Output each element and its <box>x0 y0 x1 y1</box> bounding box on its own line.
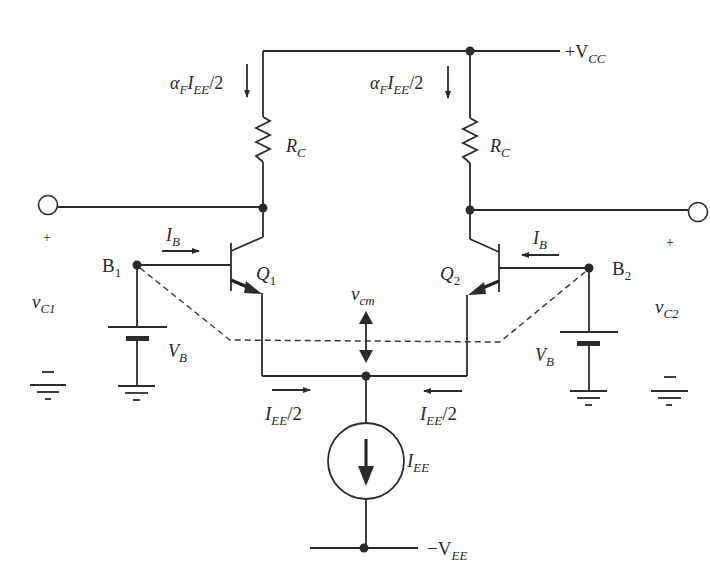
output-terminal-left[interactable] <box>39 196 58 215</box>
vee-rail: −VEE <box>310 538 467 563</box>
vcc-label: +VCC <box>565 42 606 66</box>
q1-label: Q1 <box>256 263 276 288</box>
vee-node <box>360 544 369 553</box>
battery-left-plate-short <box>126 336 149 341</box>
vcm-arrow-up <box>359 311 373 324</box>
rc-right-label: RC <box>489 136 510 160</box>
transistor-q2: Q2 <box>440 239 499 376</box>
resistor-rc-left <box>256 117 270 162</box>
iee-label: IEE <box>406 450 429 475</box>
current-source-arrow-icon <box>358 466 374 486</box>
vcm-arrow-down <box>359 350 373 363</box>
plus-right: + <box>666 235 674 250</box>
iee-half-right-label: IEE/2 <box>419 403 457 428</box>
plus-left: + <box>43 230 51 245</box>
right-collector-branch: RC αFIEE/2 <box>370 51 708 239</box>
current-source-iee: IEE <box>328 376 429 548</box>
vc1-label: vC1 <box>32 291 56 316</box>
vcm-label: vcm <box>351 283 375 308</box>
iee-half-left-label: IEE/2 <box>264 403 302 428</box>
resistor-rc-right <box>463 118 477 163</box>
output-voltage-left: + vC1 <box>30 230 66 399</box>
battery-right-plate-short <box>577 341 600 346</box>
b2-label: B2 <box>612 258 631 283</box>
emitter-arrow-q2 <box>468 282 486 295</box>
collector-node-q1 <box>259 204 268 213</box>
ib-right-label: IB <box>532 228 547 252</box>
vb-right-label: VB <box>535 345 554 369</box>
differential-pair-schematic: +VCC RC αFIEE/2 RC αFIEE/2 Q1 <box>0 0 710 583</box>
vc2-label: vC2 <box>655 296 679 321</box>
vcc-rail: +VCC <box>263 42 606 66</box>
q2-label: Q2 <box>440 263 460 288</box>
right-base-bias: B2 IB VB <box>499 228 631 405</box>
rc-left-label: RC <box>285 136 306 160</box>
left-base-bias: B1 IB VB <box>102 225 231 400</box>
collector-current-label-left: αFIEE/2 <box>170 73 223 97</box>
left-collector-branch: RC αFIEE/2 <box>39 51 307 237</box>
b1-label: B1 <box>102 255 121 280</box>
emitter-tail: vcm IEE/2 IEE/2 <box>262 283 467 428</box>
vb-left-label: VB <box>168 341 187 365</box>
ib-left-label: IB <box>165 225 180 249</box>
transistor-q1: Q1 <box>231 237 276 376</box>
vee-label: −VEE <box>427 538 467 563</box>
collector-current-label-right: αFIEE/2 <box>370 73 423 97</box>
output-terminal-right[interactable] <box>689 203 708 222</box>
output-voltage-right: + vC2 <box>651 235 688 405</box>
